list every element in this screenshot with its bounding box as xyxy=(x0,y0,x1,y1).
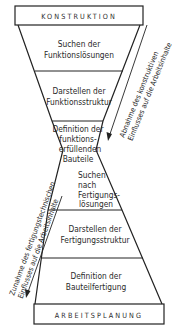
right-annotation: Abnahme des konstruktiven Einflusses auf… xyxy=(107,25,174,142)
konstruktion-label: KONSTRUKTION xyxy=(41,12,117,21)
stage-3-line-3: erfüllenden xyxy=(59,144,102,154)
left-annotation: Zunahme des fertigungstechnischen Einflu… xyxy=(7,180,65,299)
stage-definition-bauteilfertigung: Definition der Bauteilfertigung xyxy=(66,271,127,292)
stage-1-line-2: Funktionslösungen xyxy=(44,50,114,60)
stage-2-line-1: Darstellen der xyxy=(52,86,106,96)
stage-5-line-2: Fertigungsstruktur xyxy=(61,235,131,245)
stage-darstellen-fertigungsstruktur: Darstellen der Fertigungsstruktur xyxy=(61,224,131,245)
stage-darstellen-funktionsstruktur: Darstellen der Funktionsstruktur xyxy=(46,86,112,107)
right-arrow-head-icon xyxy=(107,132,113,141)
stage-2-line-2: Funktionsstruktur xyxy=(46,97,112,107)
stage-5-line-1: Darstellen der xyxy=(68,224,122,234)
stage-3-line-1: Definition der xyxy=(53,124,105,134)
arbeitsplanung-box: ARBEITSPLANUNG xyxy=(34,304,164,324)
stage-6-line-2: Bauteilfertigung xyxy=(66,282,127,292)
stage-definition-funktionserfuellende-bauteile: Definition der funktions- erfüllenden Ba… xyxy=(53,124,105,164)
stage-suchen-funktionsloesungen: Suchen der Funktionslösungen xyxy=(44,39,114,60)
hourglass-outline xyxy=(18,25,162,304)
stage-1-line-1: Suchen der xyxy=(58,39,101,49)
stage-3-line-4: Bauteile xyxy=(63,154,94,164)
arbeitsplanung-label: ARBEITSPLANUNG xyxy=(55,311,143,320)
konstruktion-box: KONSTRUKTION xyxy=(15,6,143,25)
hourglass-diagram: KONSTRUKTION Suchen der Funktionslösunge… xyxy=(0,0,178,334)
stage-4-line-1: Suchen xyxy=(78,170,106,180)
stage-3-line-2: funktions- xyxy=(59,134,97,144)
stage-suchen-fertigungsloesungen: Suchen nach Fertigungs- lösungen xyxy=(78,170,120,209)
stage-4-line-4: lösungen xyxy=(79,199,113,209)
stage-4-line-2: nach xyxy=(78,180,96,190)
stage-6-line-1: Definition der xyxy=(71,271,123,281)
